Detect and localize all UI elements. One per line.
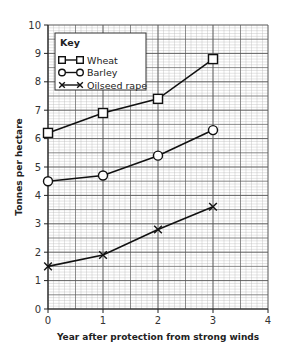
y-tick-label: 3 (35, 218, 41, 229)
x-axis-label: Year after protection from strong winds (56, 332, 259, 342)
y-tick-label: 6 (35, 133, 41, 144)
circle-marker-icon (77, 69, 84, 76)
legend-label: Barley (87, 67, 118, 78)
y-tick-label: 0 (35, 304, 41, 315)
circle-marker-icon (44, 177, 53, 186)
y-tick-label: 4 (35, 190, 41, 201)
line-chart: 012345678910 01234 Year after protection… (0, 0, 283, 356)
circle-marker-icon (209, 126, 218, 135)
legend-label: Oilseed rape (87, 80, 147, 91)
square-marker-icon (209, 55, 218, 64)
square-marker-icon (44, 128, 53, 137)
y-tick-label: 1 (35, 275, 41, 286)
circle-marker-icon (59, 69, 66, 76)
legend-title: Key (60, 37, 81, 48)
square-marker-icon (99, 109, 108, 118)
x-tick-label: 2 (155, 315, 161, 326)
y-tick-label: 2 (35, 247, 41, 258)
square-marker-icon (59, 57, 66, 64)
x-tick-label: 3 (210, 315, 216, 326)
y-tick-label: 5 (35, 162, 41, 173)
x-tick-label: 0 (45, 315, 51, 326)
y-tick-label: 9 (35, 48, 41, 59)
y-axis-label: Tonnes per hectare (14, 118, 24, 215)
y-tick-label: 7 (35, 105, 41, 116)
circle-marker-icon (99, 171, 108, 180)
square-marker-icon (154, 94, 163, 103)
y-tick-label: 10 (28, 20, 41, 31)
y-tick-label: 8 (35, 76, 41, 87)
x-axis-ticks: 01234 (45, 309, 271, 326)
x-tick-label: 1 (100, 315, 106, 326)
circle-marker-icon (154, 151, 163, 160)
square-marker-icon (77, 57, 84, 64)
x-tick-label: 4 (265, 315, 271, 326)
legend-label: Wheat (87, 55, 118, 66)
legend: Key WheatBarleyOilseed rape (55, 33, 147, 91)
